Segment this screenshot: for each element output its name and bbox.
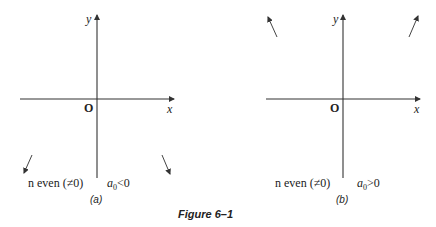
panel-b-y-label: y [333, 12, 338, 27]
panel-a-axes [20, 15, 174, 178]
panel-a-x-label: x [167, 102, 172, 117]
panel-b-label: (b) [336, 194, 348, 205]
panel-a-condition-a0: a0<0 [107, 176, 130, 192]
a0-relation: >0 [367, 176, 380, 190]
panel-b-condition-n: n even (≠0) [275, 176, 330, 191]
panel-b-arrow-up-left-icon [268, 17, 277, 37]
panel-a-label: (a) [90, 194, 102, 205]
panel-b-x-label: x [414, 102, 419, 117]
figure-caption: Figure 6–1 [178, 208, 233, 220]
panel-a-y-label: y [86, 12, 91, 27]
panel-a-condition-n: n even (≠0) [28, 176, 83, 191]
a0-relation: <0 [117, 176, 130, 190]
figure-canvas [0, 0, 436, 227]
panel-b-origin-label: O [330, 101, 339, 116]
panel-b-axes [266, 15, 420, 178]
panel-a-origin-label: O [84, 101, 93, 116]
panel-b-condition-a0: a0>0 [357, 176, 380, 192]
panel-b-arrow-up-right-icon [409, 16, 418, 37]
panel-a-arrow-down-right-icon [162, 155, 170, 174]
panel-a-arrow-down-left-icon [24, 155, 32, 173]
